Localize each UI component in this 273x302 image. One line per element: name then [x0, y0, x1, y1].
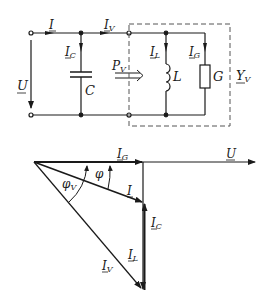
label-phi: φ	[95, 167, 104, 181]
inductor-coil	[166, 64, 170, 91]
angle-phi-arc	[108, 166, 110, 189]
label-U: U	[17, 78, 29, 93]
label-L: L	[172, 69, 182, 84]
power-arrow-head	[137, 70, 143, 81]
phasor-I-V	[34, 162, 141, 288]
circuit	[29, 24, 230, 126]
conductance-resistor	[200, 65, 210, 88]
label-Y-V: YV	[236, 68, 252, 84]
arrow-I-G	[203, 43, 207, 52]
arrow-I-C	[79, 43, 83, 52]
label-phasor-U: U	[226, 147, 237, 161]
label-C: C	[85, 83, 95, 98]
label-G: G	[213, 69, 223, 84]
label-P-V: PV	[111, 59, 127, 74]
label-I: I	[48, 18, 54, 32]
circuit-labels: I IV IC IL IG U C L G PV YV	[17, 18, 252, 98]
arrow-I-L	[164, 43, 168, 52]
circuit-and-phasor-diagram: I IV IC IL IG U C L G PV YV	[0, 0, 273, 302]
terminal-bottom-left	[29, 113, 33, 117]
phasor-labels: IG U φ φV I IC IL IV	[62, 147, 237, 274]
label-phi-V: φV	[62, 177, 77, 192]
label-phasor-I: I	[126, 184, 132, 198]
terminal-top-left	[29, 31, 33, 35]
